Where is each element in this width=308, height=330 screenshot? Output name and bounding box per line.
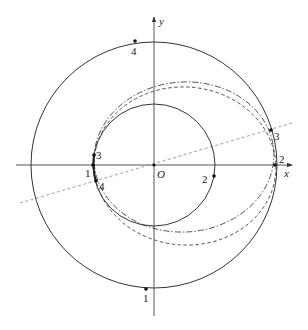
point-4-outer <box>133 39 137 43</box>
point-label-2-inner: 2 <box>202 173 208 185</box>
point-label-4-outer: 4 <box>131 45 137 57</box>
y-axis-label: y <box>158 15 164 27</box>
point-4-inner <box>94 179 98 183</box>
point-2-inner <box>212 174 216 178</box>
orbit-transfer-diagram: y x O 4 1 3 2 3 1 4 2 <box>0 0 308 330</box>
point-3-outer <box>269 128 273 132</box>
x-axis-label: x <box>283 167 289 179</box>
point-1-inner <box>91 163 95 167</box>
point-label-3-inner: 3 <box>96 149 102 161</box>
point-label-1-inner: 1 <box>85 167 91 179</box>
origin-point <box>152 163 155 166</box>
point-label-3-outer: 3 <box>274 130 280 142</box>
point-label-4-inner: 4 <box>99 180 105 192</box>
point-label-1-outer: 1 <box>143 292 149 304</box>
origin-label: O <box>157 168 165 180</box>
point-1-outer <box>144 287 148 291</box>
reference-dashed-line <box>20 123 292 203</box>
point-2-outer <box>273 163 277 167</box>
point-label-2-outer: 2 <box>279 153 285 165</box>
